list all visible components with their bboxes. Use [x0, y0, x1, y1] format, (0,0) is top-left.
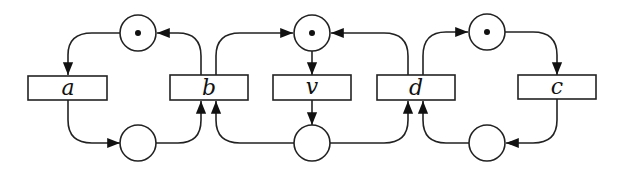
arc-p4-d — [330, 101, 408, 143]
transition-label-b: b — [202, 75, 216, 100]
transition-label-d: d — [409, 75, 423, 100]
arc-d-p3 — [331, 33, 408, 75]
arc-p5-c — [505, 32, 557, 75]
arc-p2-b — [156, 101, 201, 143]
place-p6 — [469, 125, 505, 161]
arc-p6-d — [423, 101, 469, 143]
token-p1 — [135, 30, 141, 36]
arc-p4-b — [216, 101, 294, 143]
place-p4 — [294, 125, 330, 161]
arc-p1-a — [68, 33, 120, 75]
arc-b-p3 — [216, 33, 293, 75]
transition-label-c: c — [551, 74, 563, 99]
transitions: a b v d c — [28, 74, 596, 100]
token-p5 — [484, 29, 490, 35]
place-p2 — [120, 125, 156, 161]
arc-b-p1 — [157, 33, 201, 75]
transition-label-a: a — [61, 75, 74, 100]
arc-a-p2 — [68, 100, 120, 143]
petri-net-diagram: a b v d c — [0, 0, 624, 172]
transition-label-v: v — [306, 74, 319, 99]
arc-c-p6 — [506, 99, 557, 143]
token-p3 — [309, 30, 315, 36]
arc-d-p5 — [423, 32, 468, 75]
